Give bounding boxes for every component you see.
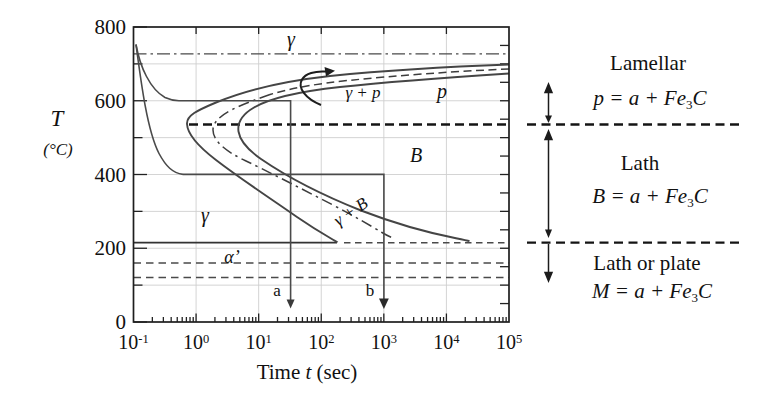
gamma-region-label-low: γ <box>201 205 209 226</box>
fifty-percent-curve-lower <box>213 95 395 239</box>
pearlite-region-label: p <box>437 81 447 102</box>
y-axis-unit: (°C) <box>43 141 72 159</box>
lath-title: Lath <box>621 152 659 174</box>
y-tick-label: 400 <box>80 162 126 187</box>
path-a-label: a <box>273 282 281 300</box>
bainite-region-label: B <box>410 145 422 166</box>
isothermal-path-b <box>183 174 384 299</box>
lath-or-plate-title: Lath or plate <box>593 252 700 274</box>
x-tick-label: 103 <box>371 331 397 354</box>
x-axis-title: Time t (sec) <box>257 361 358 383</box>
y-tick-label: 600 <box>80 88 126 113</box>
lamellar-title: Lamellar <box>610 52 686 74</box>
bainite-reaction: B = a + Fe3C <box>592 185 707 210</box>
x-tick-label: 104 <box>433 331 459 354</box>
annotation-range-arrows <box>545 84 552 281</box>
y-tick-label: 200 <box>80 236 126 261</box>
martensite-alpha-prime-label: α’ <box>224 248 239 267</box>
path-b-arrowhead-icon <box>379 299 389 310</box>
gamma-region-label-top: γ <box>287 29 295 50</box>
path-b-label: b <box>366 282 375 300</box>
ttt-diagram-figure: T (°C) Time t (sec) 8006004002000 10-110… <box>0 0 768 407</box>
gamma-plus-p-label: γ + p <box>345 84 380 102</box>
x-tick-label: 10-1 <box>118 331 148 354</box>
martensite-reaction: M = a + Fe3C <box>592 280 712 305</box>
y-axis-label: T <box>51 107 64 131</box>
y-tick-label: 800 <box>80 15 126 40</box>
x-tick-label: 101 <box>246 331 272 354</box>
path-a-arrowhead-icon <box>287 300 295 309</box>
pearlite-reaction: p = a + Fe3C <box>593 87 706 112</box>
x-tick-label: 102 <box>308 331 334 354</box>
x-tick-label: 100 <box>183 331 209 354</box>
x-tick-label: 105 <box>496 331 522 354</box>
